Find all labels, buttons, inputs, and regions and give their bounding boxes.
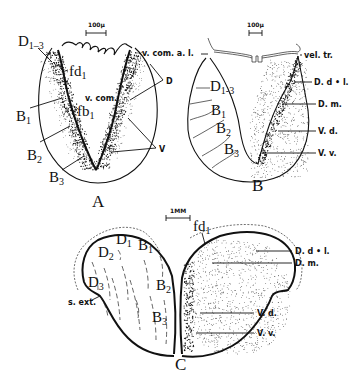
panel-c-label-sext: s. ext. xyxy=(68,298,96,307)
panel-c-scale-label: 1MM xyxy=(170,207,186,214)
panel-b: 100µ v. com. a. l. vel. tr. D1-3 B1 B2 B… xyxy=(142,21,349,195)
panel-b-scale-bar: 100µ xyxy=(247,21,265,36)
panel-c-letter: C xyxy=(175,355,186,374)
panel-a-letter: A xyxy=(92,192,105,211)
panel-b-label-vd: V. d. xyxy=(318,127,338,136)
panel-c-label-fd1: fd1 xyxy=(193,218,211,236)
panel-a-label-vcom: v. com. xyxy=(85,94,117,103)
panel-b-label-d13: D1-3 xyxy=(210,78,234,96)
panel-c: 1MM fd1 D1 D2 B1 D3 B2 B3 s. ext. D. d •… xyxy=(68,207,330,374)
panel-b-letter: B xyxy=(252,176,263,195)
panel-b-scale-label: 100µ xyxy=(247,21,265,29)
panel-a-label-b3: B3 xyxy=(49,169,64,187)
panel-b-roof xyxy=(208,38,300,62)
panel-c-label-b2: B2 xyxy=(156,277,171,295)
panel-b-label-vcomal: v. com. a. l. xyxy=(142,49,194,58)
panel-a-label-b1: B1 xyxy=(16,108,31,126)
panel-a-label-fb1: fb1 xyxy=(77,103,95,121)
panel-c-label-dm: D. m. xyxy=(295,259,319,268)
panel-b-label-b1: B1 xyxy=(211,102,226,120)
panel-c-label-vv: V. v. xyxy=(257,329,276,338)
panel-b-label-veltr: vel. tr. xyxy=(304,51,333,60)
panel-a-roof xyxy=(62,42,132,55)
panel-a-label-v: V xyxy=(159,145,166,154)
panel-c-label-d3: D3 xyxy=(88,274,104,292)
panel-c-label-vd: V. d. xyxy=(257,309,277,318)
panel-a-label-d: D xyxy=(166,77,173,86)
panel-c-label-d1: D1 xyxy=(116,231,132,249)
panel-b-label-b2: B2 xyxy=(216,120,231,138)
panel-c-fiber-lines xyxy=(92,250,167,344)
panel-b-label-vv: V. v. xyxy=(318,149,337,158)
panel-a-scale-label: 100µ xyxy=(88,21,106,29)
panel-c-left-hemisphere xyxy=(83,235,176,356)
panel-b-label-b3: B3 xyxy=(224,141,239,159)
panel-c-label-d2: D2 xyxy=(98,244,114,262)
anatomical-figure: 100µ D1–3 fd1 B1 fb1 v. com. B2 B3 D V A xyxy=(0,0,359,387)
panel-a-label-fd1: fd1 xyxy=(69,63,87,81)
panel-c-label-ddl: D. d • l. xyxy=(295,247,330,256)
panel-b-stippling xyxy=(250,58,309,178)
panel-a-label-d13: D1–3 xyxy=(18,33,44,51)
panel-c-label-b3: B3 xyxy=(152,309,167,327)
panel-c-scale-bar: 1MM xyxy=(166,207,190,221)
panel-b-label-ddl: D. d • l. xyxy=(314,78,349,87)
panel-a-label-b2: B2 xyxy=(27,147,42,165)
panel-a-scale-bar: 100µ xyxy=(86,21,106,36)
panel-c-label-b1: B1 xyxy=(138,237,153,255)
panel-b-label-dm: D. m. xyxy=(318,100,342,109)
